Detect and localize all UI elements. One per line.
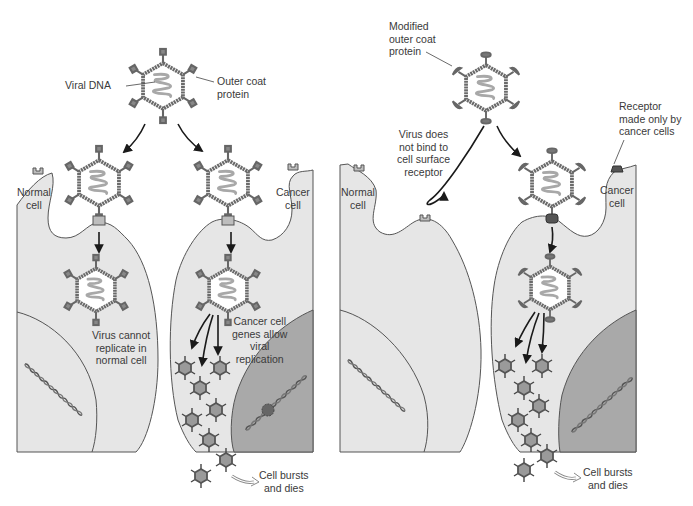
label-receptor-cancer-only: Receptor made only by cancer cells <box>619 100 681 138</box>
label-cancer-genes-allow-replication: Cancer cell genes allow viral replicatio… <box>232 315 287 365</box>
virus-icon <box>130 49 197 123</box>
label-outer-coat-protein: Outer coat protein <box>217 75 266 100</box>
modified-virus-icon <box>453 52 520 123</box>
label-cancer-cell-2: Cancer cell <box>600 184 634 209</box>
label-normal-cell-1: Normal cell <box>17 186 51 211</box>
label-modified-outer-coat: Modified outer coat protein <box>389 20 436 58</box>
label-virus-cannot-replicate: Virus cannot replicate in normal cell <box>92 329 150 367</box>
label-cell-bursts-2: Cell bursts and dies <box>583 466 633 491</box>
label-virus-does-not-bind: Virus does not bind to cell surface rece… <box>397 128 450 178</box>
label-cell-bursts-1: Cell bursts and dies <box>259 469 309 494</box>
label-normal-cell-2: Normal cell <box>341 186 375 211</box>
label-viral-dna: Viral DNA <box>65 79 111 92</box>
diagram-canvas <box>0 0 693 506</box>
label-cancer-cell-1: Cancer cell <box>276 186 310 211</box>
